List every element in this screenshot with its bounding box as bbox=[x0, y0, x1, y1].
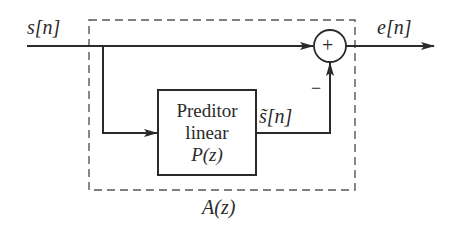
system-label: A(z) bbox=[202, 197, 235, 217]
sum-plus-sign: + bbox=[322, 35, 333, 55]
predictor-line2: linear bbox=[185, 122, 228, 144]
predictor-line1: Preditor bbox=[176, 100, 237, 122]
branch-to-predictor-line bbox=[103, 46, 157, 133]
predicted-signal-label: s̃[n] bbox=[259, 106, 292, 126]
input-signal-label: s[n] bbox=[27, 17, 60, 37]
predictor-block-text: Preditor linear P(z) bbox=[158, 90, 256, 175]
predictor-transfer-function: P(z) bbox=[191, 144, 223, 166]
minus-sign: − bbox=[311, 79, 321, 97]
output-signal-label: e[n] bbox=[377, 17, 411, 37]
